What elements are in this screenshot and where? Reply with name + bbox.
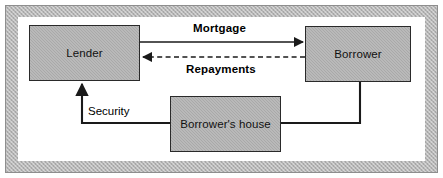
- edge-label-repayments: Repayments: [186, 63, 256, 75]
- edge-label-mortgage: Mortgage: [193, 22, 246, 34]
- node-borrowers-house-label: Borrower's house: [180, 118, 271, 130]
- node-lender-label: Lender: [66, 47, 102, 59]
- node-borrower-label: Borrower: [334, 48, 381, 60]
- edge-security-line: [82, 84, 170, 123]
- figure-root: Lender Borrower Borrower's house Mortgag…: [0, 0, 443, 178]
- node-lender[interactable]: Lender: [29, 25, 140, 81]
- node-borrower[interactable]: Borrower: [305, 26, 411, 82]
- node-borrowers-house[interactable]: Borrower's house: [170, 96, 281, 152]
- edge-label-security: Security: [88, 105, 130, 117]
- edge-borrower-to-house-line: [281, 82, 360, 123]
